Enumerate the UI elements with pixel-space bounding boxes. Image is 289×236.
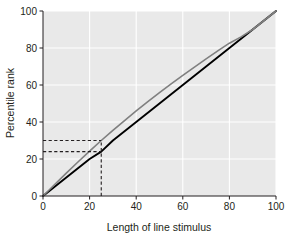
x-axis-tick-label: 20: [84, 201, 96, 212]
y-axis-tick-label: 20: [26, 154, 38, 165]
x-axis-tick-label: 40: [131, 201, 143, 212]
y-axis-tick-label: 0: [31, 191, 37, 202]
y-axis-title: Percentile rank: [4, 67, 16, 138]
y-axis-tick-label: 60: [26, 80, 38, 91]
percentile-rank-line-chart: 020406080100020406080100 Length of line …: [0, 0, 289, 236]
x-axis-title: Length of line stimulus: [107, 221, 211, 233]
y-axis-tick-label: 40: [26, 117, 38, 128]
y-axis-tick-label: 100: [20, 6, 37, 17]
x-axis-tick-label: 100: [268, 201, 285, 212]
y-axis-tick-label: 80: [26, 43, 38, 54]
x-axis-tick-label: 60: [177, 201, 189, 212]
chart-figure: 020406080100020406080100 Length of line …: [0, 0, 289, 236]
x-axis-tick-label: 80: [224, 201, 236, 212]
x-axis-tick-label: 0: [40, 201, 46, 212]
